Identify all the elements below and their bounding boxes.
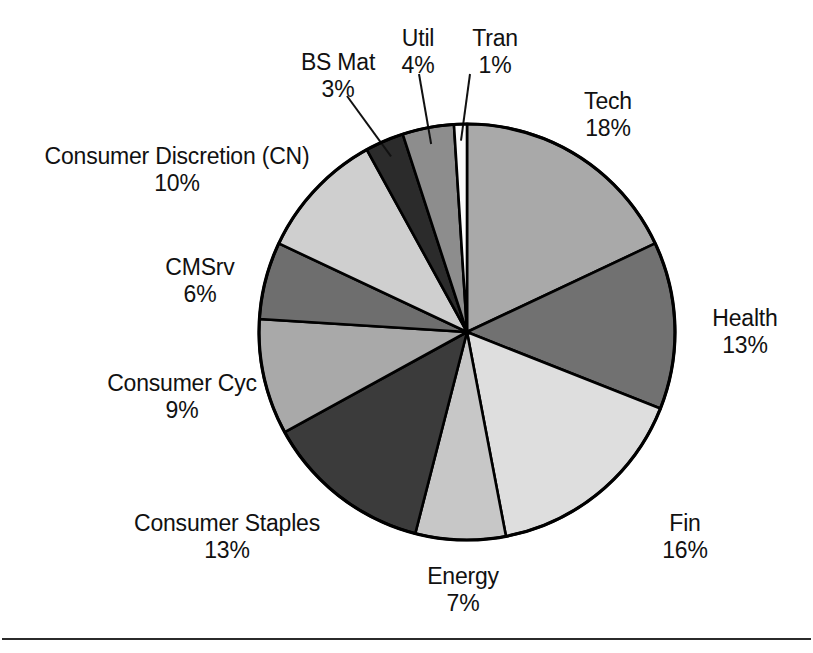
slice-label-cmsrv-value: 6% (130, 281, 270, 308)
slice-label-energy-name: Energy (398, 563, 528, 590)
slice-label-fin-name: Fin (630, 510, 740, 537)
slice-label-tech-value: 18% (548, 115, 668, 142)
slice-label-consumer-staples-value: 13% (112, 537, 342, 564)
slice-label-util: Util 4% (384, 25, 452, 79)
slice-label-health: Health 13% (690, 305, 800, 359)
slice-label-consumer-discretion-name: Consumer Discretion (CN) (22, 143, 332, 170)
slice-label-consumer-cyc: Consumer Cyc 9% (84, 370, 280, 424)
slice-label-health-name: Health (690, 305, 800, 332)
slice-label-consumer-cyc-value: 9% (84, 397, 280, 424)
slice-label-consumer-staples: Consumer Staples 13% (112, 510, 342, 564)
slice-label-util-value: 4% (384, 52, 452, 79)
slice-label-fin: Fin 16% (630, 510, 740, 564)
slice-label-cmsrv-name: CMSrv (130, 254, 270, 281)
slice-label-tech: Tech 18% (548, 88, 668, 142)
slice-label-fin-value: 16% (630, 537, 740, 564)
slice-label-energy: Energy 7% (398, 563, 528, 617)
slice-label-tran: Tran 1% (456, 25, 534, 79)
slice-label-bs-mat-value: 3% (279, 76, 397, 103)
pie-chart-figure: Tech 18% Health 13% Fin 16% Energy 7% Co… (0, 0, 813, 653)
slice-label-consumer-discretion: Consumer Discretion (CN) 10% (22, 143, 332, 197)
slice-label-health-value: 13% (690, 332, 800, 359)
slice-label-util-name: Util (384, 25, 452, 52)
slice-label-tran-name: Tran (456, 25, 534, 52)
slice-label-energy-value: 7% (398, 590, 528, 617)
slice-label-cmsrv: CMSrv 6% (130, 254, 270, 308)
slice-label-tran-value: 1% (456, 52, 534, 79)
slice-label-consumer-cyc-name: Consumer Cyc (84, 370, 280, 397)
slice-label-bs-mat-name: BS Mat (279, 49, 397, 76)
bottom-rule (2, 638, 811, 640)
slice-label-consumer-discretion-value: 10% (22, 170, 332, 197)
slice-label-bs-mat: BS Mat 3% (279, 49, 397, 103)
slice-label-tech-name: Tech (548, 88, 668, 115)
slice-label-consumer-staples-name: Consumer Staples (112, 510, 342, 537)
